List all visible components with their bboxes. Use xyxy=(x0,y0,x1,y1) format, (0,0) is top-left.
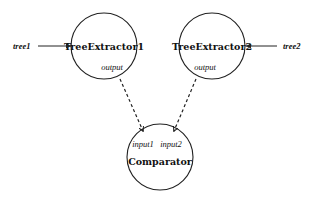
external-input-tree2: tree2 xyxy=(246,41,301,51)
node-tree-extractor-1: TreeExtractor1 output xyxy=(64,13,144,79)
node-tree-extractor-2: TreeExtractor2 output xyxy=(172,13,252,79)
tree2-label: tree2 xyxy=(283,41,301,51)
comparator-input2-port: input2 xyxy=(160,139,182,149)
comparator-input1-port: input1 xyxy=(132,139,154,149)
external-input-tree1: tree1 xyxy=(13,41,71,51)
tree-extractor-2-output-port: output xyxy=(194,62,216,72)
tree-extractor-1-output-port: output xyxy=(101,62,123,72)
edge-extractor1-to-comparator-input1 xyxy=(120,79,143,131)
edge-extractor2-to-comparator-input2 xyxy=(174,79,196,131)
tree-extractor-2-label: TreeExtractor2 xyxy=(172,41,252,52)
tree-extractor-1-label: TreeExtractor1 xyxy=(64,41,144,52)
node-comparator: input1 input2 Comparator xyxy=(127,124,193,190)
dataflow-diagram: TreeExtractor1 output TreeExtractor2 out… xyxy=(0,0,316,209)
comparator-label: Comparator xyxy=(128,156,193,167)
tree1-label: tree1 xyxy=(13,41,30,51)
